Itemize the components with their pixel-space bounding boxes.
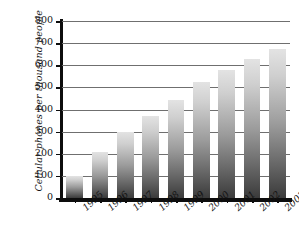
y-tick-mark <box>56 110 62 112</box>
x-tick-label: 2001 <box>232 205 240 213</box>
bar-chart: Cellular phones per thousand people 0100… <box>0 0 299 242</box>
bar <box>142 116 159 198</box>
y-tick-label: 500 <box>35 80 53 91</box>
y-tick-mark <box>56 21 62 23</box>
y-tick-mark <box>56 176 62 178</box>
bar <box>193 82 210 198</box>
x-tick-label: 2000 <box>206 205 214 213</box>
x-tick-label: 1996 <box>105 205 113 213</box>
x-tick-label: 1998 <box>156 205 164 213</box>
y-tick-label: 700 <box>35 36 53 47</box>
bar <box>218 70 235 198</box>
y-tick-label: 300 <box>35 125 53 136</box>
bar <box>117 132 134 198</box>
x-tick-label: 1999 <box>181 205 189 213</box>
gridline <box>62 21 290 22</box>
y-tick-label: 200 <box>35 147 53 158</box>
y-tick-mark <box>56 132 62 134</box>
y-tick-mark <box>56 65 62 67</box>
gridline <box>62 43 290 44</box>
y-tick-mark <box>56 154 62 156</box>
y-tick-mark <box>56 198 62 200</box>
bar <box>269 49 286 198</box>
bar <box>168 100 185 198</box>
y-tick-label: 800 <box>35 14 53 25</box>
plot-area: 0100200300400500600700800 <box>62 21 290 198</box>
x-tick-label: 2002 <box>257 205 265 213</box>
bar <box>66 176 83 198</box>
y-tick-label: 100 <box>35 169 53 180</box>
y-tick-label: 600 <box>35 58 53 69</box>
x-tick-label: 2003 <box>282 205 290 213</box>
x-tick-label: 1997 <box>130 205 138 213</box>
y-tick-mark <box>56 43 62 45</box>
y-tick-mark <box>56 87 62 89</box>
y-tick-label: 0 <box>47 191 53 202</box>
x-tick-mark <box>75 198 77 203</box>
bar <box>244 59 261 198</box>
y-tick-label: 400 <box>35 103 53 114</box>
x-tick-label: 1995 <box>80 205 88 213</box>
